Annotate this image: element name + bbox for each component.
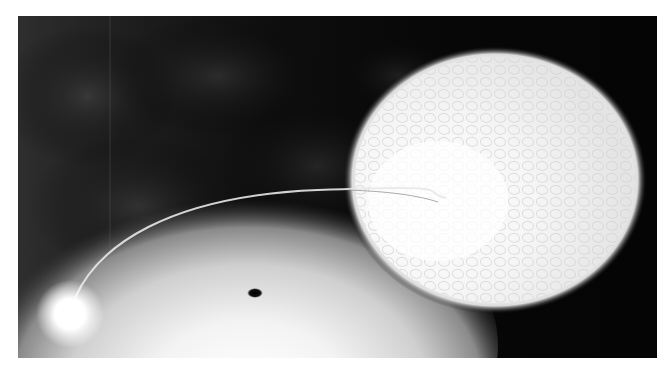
companion-star xyxy=(343,46,648,314)
black-hole xyxy=(247,288,263,298)
illustration-frame: Artist illustration of a binary system: … xyxy=(18,16,657,358)
binary-system-illustration xyxy=(18,16,657,358)
hot-spot xyxy=(36,280,104,348)
